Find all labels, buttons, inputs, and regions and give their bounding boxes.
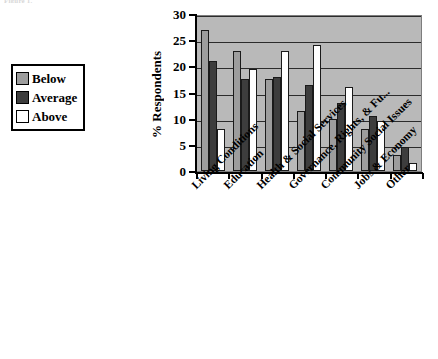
bar-below[interactable]: [361, 129, 369, 171]
y-tick-label-0: 0: [164, 165, 186, 178]
x-tick: [357, 173, 359, 179]
plot-area: [196, 15, 422, 172]
bar-group: [393, 16, 417, 171]
y-tick-30: [189, 14, 196, 16]
x-tick: [196, 173, 198, 179]
x-tick: [422, 173, 424, 179]
caption-remnant: Figure 1.: [4, 0, 304, 3]
bar-above[interactable]: [281, 51, 289, 171]
bar-above[interactable]: [217, 129, 225, 171]
y-tick-5: [189, 145, 196, 147]
x-tick: [228, 173, 230, 179]
bar-group: [233, 16, 257, 171]
bar-group: [297, 16, 321, 171]
bar-group: [329, 16, 353, 171]
legend-label-average: Average: [32, 91, 77, 104]
y-tick-label-10: 10: [164, 113, 186, 126]
bar-average[interactable]: [401, 147, 409, 171]
y-tick-label-15: 15: [164, 87, 186, 100]
y-tick-label-30: 30: [164, 8, 186, 21]
y-tick-0: [189, 171, 196, 173]
bar-above[interactable]: [249, 69, 257, 171]
legend-item-below: Below: [16, 69, 79, 88]
bar-below[interactable]: [297, 111, 305, 171]
legend-swatch-above: [16, 110, 29, 123]
bar-above[interactable]: [377, 121, 385, 171]
bar-below[interactable]: [201, 30, 209, 171]
bar-below[interactable]: [329, 119, 337, 171]
bar-average[interactable]: [209, 61, 217, 171]
legend-swatch-below: [16, 72, 29, 85]
legend-label-above: Above: [32, 110, 67, 123]
x-tick: [293, 173, 295, 179]
bar-group: [265, 16, 289, 171]
y-tick-15: [189, 93, 196, 95]
bar-average[interactable]: [369, 116, 377, 171]
x-tick: [325, 173, 327, 179]
bar-above[interactable]: [313, 45, 321, 171]
y-tick-label-25: 25: [164, 34, 186, 47]
bar-average[interactable]: [337, 103, 345, 171]
x-tick: [390, 173, 392, 179]
bar-average[interactable]: [305, 85, 313, 171]
figure-root: Figure 1. Below Average Above % Responde…: [0, 0, 438, 359]
bar-group: [201, 16, 225, 171]
bar-group: [361, 16, 385, 171]
bar-average[interactable]: [273, 77, 281, 171]
bar-below[interactable]: [233, 51, 241, 171]
y-axis-tick-labels: 302520151050: [162, 0, 186, 359]
legend-label-below: Below: [32, 72, 66, 85]
bar-below[interactable]: [393, 155, 401, 171]
bar-above[interactable]: [409, 163, 417, 171]
legend-item-above: Above: [16, 107, 79, 126]
y-tick-10: [189, 119, 196, 121]
bar-groups: [197, 16, 421, 171]
y-tick-20: [189, 66, 196, 68]
y-tick-label-20: 20: [164, 60, 186, 73]
x-tick: [261, 173, 263, 179]
legend-swatch-average: [16, 91, 29, 104]
bar-average[interactable]: [241, 79, 249, 171]
chart-legend: Below Average Above: [11, 64, 85, 131]
y-tick-label-5: 5: [164, 139, 186, 152]
y-tick-25: [189, 40, 196, 42]
bar-below[interactable]: [265, 79, 273, 171]
legend-item-average: Average: [16, 88, 79, 107]
bar-above[interactable]: [345, 87, 353, 171]
